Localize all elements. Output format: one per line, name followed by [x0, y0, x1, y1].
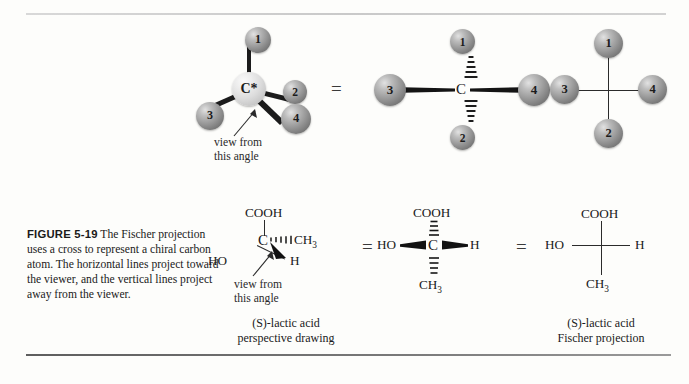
atom-sphere-4: 4 — [281, 104, 311, 134]
atom-sphere-cross-left-3: 3 — [550, 75, 579, 104]
equals-sign-top-1: = — [331, 78, 342, 100]
atom-sphere-center-chiral: C* — [232, 72, 266, 106]
bond-c-to-cooh — [264, 220, 265, 236]
atom-sphere-left-3: 3 — [374, 74, 406, 106]
label-ho-perspective: HO — [208, 253, 227, 269]
hash-bond-wd-to-cooh — [425, 220, 443, 240]
atom-sphere-cross-top-1: 1 — [594, 29, 623, 58]
label-cooh-fischer: COOH — [581, 206, 618, 222]
label-cooh-perspective: COOH — [245, 205, 282, 221]
equals-sign-bottom-1: = — [362, 236, 373, 258]
atom-sphere-bottom-2: 2 — [450, 125, 475, 150]
bottom-divider-rule — [26, 354, 671, 356]
top-divider-rule — [26, 13, 666, 15]
atom-sphere-cross-bottom-2: 2 — [594, 119, 623, 148]
figure-label: FIGURE 5-19 — [27, 228, 98, 240]
view-angle-note-perspective-line1: view from — [234, 278, 282, 291]
atom-sphere-3: 3 — [196, 102, 224, 130]
figure-caption: FIGURE 5-19 The Fischer projection uses … — [27, 227, 223, 302]
fischer-line-horizontal — [572, 245, 630, 246]
perspective-name-line2: perspective drawing — [226, 331, 346, 346]
hash-bond-center-to-2 — [462, 100, 480, 126]
view-angle-arrow — [230, 106, 264, 138]
atom-sphere-cross-right-4: 4 — [638, 75, 667, 104]
atom-sphere-top-1: 1 — [450, 29, 475, 54]
fischer-name-line2: Fischer projection — [541, 331, 661, 346]
atom-sphere-1: 1 — [245, 27, 271, 53]
perspective-name-line1: (S)-lactic acid — [226, 316, 346, 331]
wedge-bond-center-to-3 — [403, 84, 455, 96]
label-h-fischer: H — [635, 237, 645, 253]
label-ho-fischer: HO — [545, 237, 564, 253]
fischer-name-line1: (S)-lactic acid — [541, 316, 661, 331]
figure-page: FIGURE 5-19 The Fischer projection uses … — [0, 0, 689, 384]
label-cooh-wedge-dash: COOH — [413, 205, 450, 221]
label-ho-wedge-dash: HO — [377, 237, 396, 253]
view-angle-note-line2: this angle — [214, 150, 259, 163]
wedge-bond-center-to-4 — [470, 84, 522, 96]
view-angle-note-perspective-line2: this angle — [234, 292, 279, 305]
atom-sphere-right-4: 4 — [518, 74, 550, 106]
wedge-bond-wd-to-ho — [400, 239, 426, 252]
equals-sign-bottom-2: = — [516, 236, 527, 258]
hash-bond-wd-to-ch3 — [425, 256, 443, 280]
label-h-wedge-dash: H — [470, 237, 480, 253]
fischer-line-vertical — [601, 221, 602, 275]
view-angle-arrow-perspective — [250, 248, 280, 278]
label-ch3-fischer: CH3 — [586, 276, 609, 294]
center-atom-label-wedge: C — [456, 81, 466, 98]
atom-sphere-2: 2 — [283, 80, 307, 104]
wedge-bond-wd-to-h — [442, 239, 468, 252]
hash-bond-center-to-1 — [462, 56, 480, 82]
